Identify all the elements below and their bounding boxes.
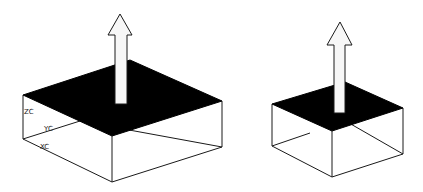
right-box-back-edge-y — [272, 133, 310, 146]
left-box-bottom-left-edge — [23, 139, 112, 182]
right-box-bottom-right-edge — [332, 154, 403, 177]
left-box-bottom-right-edge — [112, 147, 222, 182]
axis-label-xc: XC — [40, 143, 49, 151]
right-box-bottom-left-edge — [272, 146, 332, 177]
axis-label-zc: ZC — [24, 108, 34, 116]
diagram-canvas: ZC YC XC — [0, 0, 423, 192]
axis-label-yc: YC — [43, 125, 53, 133]
right-box-back-edge-x — [349, 123, 403, 154]
